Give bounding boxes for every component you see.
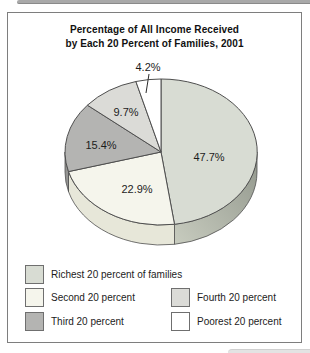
- legend-swatch-second: [25, 288, 44, 307]
- legend-item-fourth: Fourth 20 percent: [171, 288, 276, 307]
- legend-item-third: Third 20 percent: [25, 312, 124, 331]
- slice-label-fourth: 9.7%: [113, 106, 138, 118]
- slice-label-second: 22.9%: [121, 183, 152, 195]
- legend-label-fourth: Fourth 20 percent: [197, 292, 276, 303]
- legend-item-richest: Richest 20 percent of families: [25, 265, 182, 284]
- legend-label-third: Third 20 percent: [51, 316, 124, 327]
- legend-swatch-third: [25, 312, 44, 331]
- legend-swatch-fourth: [171, 288, 190, 307]
- legend-label-second: Second 20 percent: [51, 292, 135, 303]
- legend-label-richest: Richest 20 percent of families: [51, 269, 182, 280]
- legend-item-second: Second 20 percent: [25, 288, 135, 307]
- slice-label-richest: 47.7%: [193, 151, 224, 163]
- slice-label-poorest: 4.2%: [135, 61, 160, 73]
- slice-label-third: 15.4%: [85, 139, 116, 151]
- legend-swatch-richest: [25, 265, 44, 284]
- legend-swatch-poorest: [171, 312, 190, 331]
- legend-item-poorest: Poorest 20 percent: [171, 312, 282, 331]
- legend-label-poorest: Poorest 20 percent: [197, 316, 282, 327]
- figure-canvas: Percentage of All Income Received by Eac…: [0, 0, 310, 353]
